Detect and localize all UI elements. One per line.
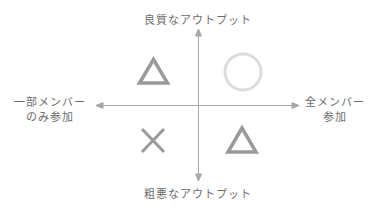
circle-icon-top-right	[225, 54, 261, 90]
horizontal-axis	[96, 103, 299, 109]
triangle-icon-bottom-right	[228, 128, 256, 152]
arrow-down-icon	[196, 174, 202, 181]
cross-icon-bottom-left	[142, 129, 164, 152]
arrow-right-icon	[292, 103, 299, 109]
arrow-left-icon	[96, 103, 103, 109]
quadrant-diagram	[0, 0, 377, 212]
arrow-up-icon	[196, 29, 202, 36]
triangle-icon-top-left	[140, 60, 168, 84]
